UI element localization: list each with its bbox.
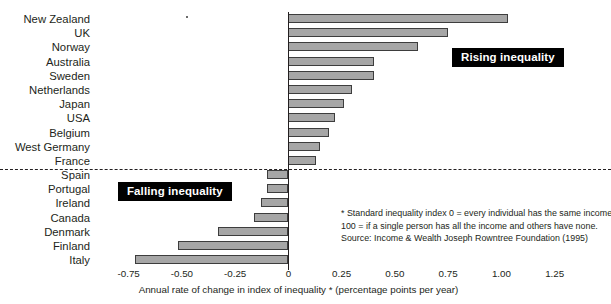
bar-row (102, 253, 568, 267)
rising-falling-divider (0, 169, 611, 170)
category-label: Netherlands (0, 83, 96, 97)
bar (288, 113, 335, 122)
x-tick-label: 1.00 (492, 268, 511, 279)
bar (288, 57, 373, 66)
bar (288, 71, 373, 80)
x-axis-title: Annual rate of change in index of inequa… (0, 284, 611, 295)
bar (267, 184, 288, 193)
bar-row (102, 83, 568, 97)
footnote-line-1: * Standard inequality index 0 = every in… (341, 207, 609, 220)
bar-row (102, 126, 568, 140)
bar (288, 28, 448, 37)
x-axis-title-text: Annual rate of change in index of inequa… (139, 284, 459, 295)
bar-row (102, 140, 568, 154)
bar-row (102, 97, 568, 111)
x-tick-label: 0 (286, 268, 291, 279)
category-label: New Zealand (0, 12, 96, 26)
category-label: Canada (0, 211, 96, 225)
category-label: West Germany (0, 140, 96, 154)
falling-inequality-callout: Falling inequality (118, 182, 232, 201)
footnote-line-3: Source: Income & Wealth Joseph Rowntree … (341, 232, 609, 245)
bar (288, 85, 352, 94)
x-tick-label: 1.25 (545, 268, 564, 279)
category-label: Norway (0, 40, 96, 54)
x-axis-ticks: -0.75-0.50-0.2500.250.500.751.001.25 (0, 268, 611, 284)
category-label: Finland (0, 239, 96, 253)
x-tick-label: 0.50 (385, 268, 404, 279)
x-tick-label: 0.75 (439, 268, 458, 279)
bar-row (102, 168, 568, 182)
x-tick-label: -0.25 (224, 268, 246, 279)
category-label: Ireland (0, 196, 96, 210)
bar (288, 156, 316, 165)
bar (267, 170, 288, 179)
footnote-block: * Standard inequality index 0 = every in… (341, 207, 609, 245)
bar-row (102, 111, 568, 125)
category-label: France (0, 154, 96, 168)
bar (218, 227, 288, 236)
bar (288, 99, 343, 108)
bar-row (102, 154, 568, 168)
bar (288, 14, 507, 23)
category-label: Japan (0, 97, 96, 111)
category-label: Portugal (0, 182, 96, 196)
category-labels: New ZealandUKNorwayAustraliaSwedenNether… (0, 12, 96, 267)
category-label: Italy (0, 253, 96, 267)
bar (135, 255, 288, 264)
category-label: Sweden (0, 69, 96, 83)
x-tick-label: 0.25 (332, 268, 351, 279)
category-label: UK (0, 26, 96, 40)
bar (288, 128, 328, 137)
rising-inequality-callout: Rising inequality (452, 48, 564, 67)
category-label: USA (0, 111, 96, 125)
category-label: Australia (0, 55, 96, 69)
bar (261, 198, 289, 207)
category-label: Belgium (0, 126, 96, 140)
bar (254, 213, 288, 222)
category-label: Spain (0, 168, 96, 182)
bar (288, 142, 320, 151)
x-tick-label: -0.75 (117, 268, 139, 279)
zero-axis-line (288, 12, 290, 270)
bar (288, 42, 418, 51)
bar-row (102, 69, 568, 83)
footnote-line-2: 100 = if a single person has all the inc… (341, 220, 609, 233)
inequality-bar-chart: New ZealandUKNorwayAustraliaSwedenNether… (0, 0, 611, 304)
x-tick-label: -0.50 (171, 268, 193, 279)
category-label: Denmark (0, 225, 96, 239)
bar (178, 241, 289, 250)
bar-row (102, 12, 568, 26)
bar-row (102, 26, 568, 40)
